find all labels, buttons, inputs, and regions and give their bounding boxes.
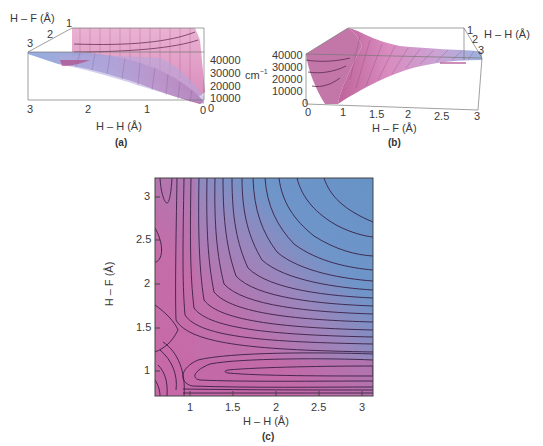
c-x-tick: 1 bbox=[187, 401, 193, 413]
c-y-tick: 1 bbox=[144, 364, 150, 376]
contour-plot-c bbox=[0, 0, 543, 446]
c-y-tick: 1.5 bbox=[136, 321, 151, 333]
c-y-tick: 3 bbox=[144, 190, 150, 202]
c-x-axis-label: H – H (Å) bbox=[243, 415, 289, 427]
c-x-tick: 3 bbox=[359, 401, 365, 413]
c-y-tick: 2 bbox=[144, 277, 150, 289]
c-x-tick: 1.5 bbox=[225, 401, 240, 413]
caption-c: (c) bbox=[262, 431, 274, 442]
c-y-axis-label: H – F (Å) bbox=[103, 262, 115, 307]
c-y-tick: 2.5 bbox=[136, 233, 151, 245]
c-x-tick: 2.5 bbox=[311, 401, 326, 413]
c-x-tick: 2 bbox=[273, 401, 279, 413]
